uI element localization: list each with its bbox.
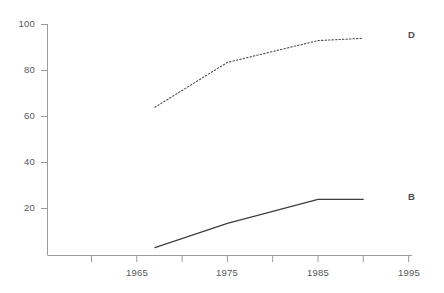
x-tick-label-1995: 1995 [389, 267, 429, 278]
series-line-b [155, 199, 363, 247]
series-line-d [155, 38, 363, 107]
y-tick-label-60: 60 [5, 110, 35, 121]
line-chart: 100 80 60 40 20 1965 1975 1985 1995 D B [0, 0, 444, 293]
series-label-d: D [408, 29, 415, 40]
x-tick-label-1985: 1985 [298, 267, 338, 278]
series-label-b: B [408, 191, 415, 202]
x-axis-ticks [92, 256, 409, 263]
y-axis-ticks [41, 25, 48, 209]
y-tick-label-100: 100 [5, 18, 35, 29]
y-tick-label-40: 40 [5, 156, 35, 167]
y-tick-label-80: 80 [5, 64, 35, 75]
chart-canvas [0, 0, 444, 293]
x-tick-label-1975: 1975 [207, 267, 247, 278]
y-tick-label-20: 20 [5, 202, 35, 213]
x-tick-label-1965: 1965 [117, 267, 157, 278]
